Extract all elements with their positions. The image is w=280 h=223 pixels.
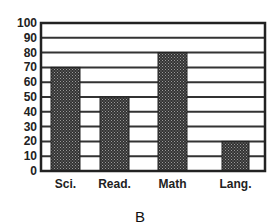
y-tick-label: 90: [24, 31, 38, 45]
y-tick-label: 20: [24, 134, 38, 148]
y-tick-label: 50: [24, 90, 38, 104]
bar-chart: 0102030405060708090100 Sci.Read.MathLang…: [0, 0, 280, 223]
x-category-label: Lang.: [220, 177, 252, 191]
x-category-label: Sci.: [55, 177, 76, 191]
y-axis-ticks: 0102030405060708090100: [17, 16, 37, 178]
y-tick-label: 0: [30, 164, 37, 178]
bar-math: [158, 53, 187, 171]
y-tick-label: 40: [24, 105, 38, 119]
x-axis-categories: Sci.Read.MathLang.: [55, 177, 252, 191]
y-tick-label: 70: [24, 60, 38, 74]
bar-read: [100, 97, 129, 171]
y-tick-label: 80: [24, 46, 38, 60]
bar-lang: [222, 141, 249, 171]
y-tick-label: 30: [24, 120, 38, 134]
chart-caption: B: [135, 208, 145, 223]
x-category-label: Read.: [98, 177, 131, 191]
y-tick-label: 10: [24, 149, 38, 163]
y-tick-label: 60: [24, 75, 38, 89]
bar-sci: [51, 67, 80, 171]
y-tick-label: 100: [17, 16, 37, 30]
x-category-label: Math: [159, 177, 187, 191]
